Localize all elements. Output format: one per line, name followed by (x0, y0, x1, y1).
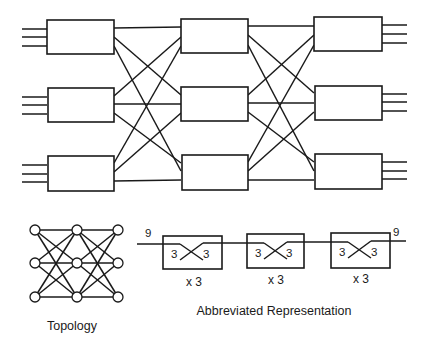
stage-1 (47, 20, 114, 191)
diagram-svg: Topology 9 9 3 3 3 3 (0, 0, 428, 348)
switch-box-s2-2 (181, 87, 248, 121)
diagram-canvas: Topology 9 9 3 3 3 3 (0, 0, 428, 348)
abbrev-box-1-in-label: 3 (171, 248, 177, 260)
abbrev-box-3-in-label: 3 (339, 246, 345, 258)
switch-box-s3-2 (315, 86, 382, 120)
stage-3 (314, 17, 382, 189)
topology-node (113, 258, 123, 268)
abbreviated-representation: 9 9 3 3 3 3 3 3 x 3 x 3 x 3 Abbreviated … (137, 226, 406, 318)
stage-2 (181, 19, 248, 190)
topology-node (113, 225, 123, 235)
topology-node (72, 225, 82, 235)
topology-node (72, 292, 82, 302)
switch-box-s2-1 (181, 19, 248, 53)
topology-node (30, 225, 40, 235)
topology-label: Topology (47, 319, 98, 333)
interconnect-stage2-stage3 (248, 26, 314, 180)
output-lines (382, 25, 407, 179)
abbrev-output-count: 9 (393, 226, 399, 238)
topology-node (113, 292, 123, 302)
switch-box-s2-3 (182, 155, 248, 190)
abbrev-box-3-out-label: 3 (371, 246, 377, 258)
abbrev-box-2-out-label: 3 (286, 247, 292, 259)
topology-graph: Topology (30, 225, 123, 333)
switch-box-s3-1 (314, 17, 382, 51)
abbrev-box-1-multiplier: x 3 (186, 275, 202, 289)
abbrev-box-2-multiplier: x 3 (268, 273, 284, 287)
topology-node (30, 292, 40, 302)
topology-node (30, 258, 40, 268)
abbrev-box-1-out-label: 3 (203, 248, 209, 260)
interconnect-stage1-stage2 (114, 27, 181, 181)
input-lines (22, 29, 47, 182)
abbreviated-label: Abbreviated Representation (197, 304, 352, 318)
topology-node (72, 258, 82, 268)
abbrev-box-3-multiplier: x 3 (353, 272, 369, 286)
main-network (22, 17, 407, 191)
switch-box-s1-2 (48, 88, 114, 122)
switch-box-s3-3 (315, 154, 382, 189)
switch-box-s1-1 (47, 20, 114, 54)
abbrev-box-2-in-label: 3 (255, 247, 261, 259)
switch-box-s1-3 (48, 156, 114, 191)
abbrev-input-count: 9 (145, 227, 151, 239)
